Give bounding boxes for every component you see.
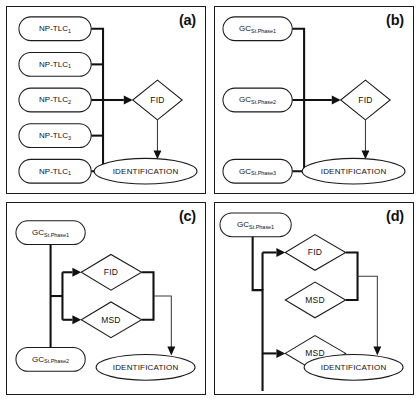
panel-c-arrowhead-msd [72,315,81,324]
panel-b-arrowhead-fid [332,96,341,105]
panel-c-arrowhead-ident [167,346,175,355]
panel-a-source-5-label: NP-TLC1 [39,167,71,177]
panel-d-detector-msd-1-label: MSD [305,295,324,305]
panel-b: (b) GCSt.Phase1 GCSt.Phase2 GCSt.Phase3 … [214,6,414,194]
panel-c-output-bracket [142,272,154,320]
panel-d-spine [253,233,263,391]
panel-b-detector-fid-label: FID [358,95,372,105]
panel-a-output-label: IDENTIFICATION [113,167,179,176]
panel-c-detector-fid-label: FID [104,267,118,277]
panel-d-output-bracket [346,252,358,300]
panel-b-output-label: IDENTIFICATION [321,167,387,176]
panel-d-output-run [358,276,378,347]
panel-a-source-1-label: NP-TLC1 [39,24,71,34]
panel-a: (a) NP-TLC1 NP-TLC1 NP-TLC2 NP-TLC3 NP-T… [6,6,206,194]
panel-a-source-2-label: NP-TLC1 [39,60,71,70]
panel-d-arrowhead-msd2 [276,349,285,358]
panel-c-diagram: GCSt.Phase1 GCSt.Phase2 FID MSD IDENTIFI… [7,203,205,394]
panel-b-arrowhead-ident [361,150,369,159]
panel-d-output-label: IDENTIFICATION [321,363,387,372]
panel-a-detector-fid-label: FID [150,95,164,105]
panel-d-diagram: GCSt.Phase1 FID MSD MSD IDENTIFICATION [215,203,413,394]
panel-a-source-3-label: NP-TLC2 [39,96,71,106]
panel-c: (c) GCSt.Phase1 GCSt.Phase2 FID [6,202,206,395]
panel-c-detector-msd-label: MSD [101,315,120,325]
panel-a-source-4-label: NP-TLC3 [39,131,71,141]
panel-c-arrowhead-fid [72,268,81,277]
panel-c-output-run [154,296,172,347]
panel-b-diagram: GCSt.Phase1 GCSt.Phase2 GCSt.Phase3 FID … [215,7,413,193]
panel-a-arrowhead-ident [153,150,161,159]
panel-d-arrowhead-ident [373,346,381,355]
panel-d-arrowhead-fid [276,248,285,257]
panel-d-detector-msd-2-label: MSD [305,348,324,358]
panel-a-arrowhead-fid [124,96,133,105]
panel-d: (d) GCSt.Phase1 FID MSD MSD [214,202,414,395]
panel-a-diagram: NP-TLC1 NP-TLC1 NP-TLC2 NP-TLC3 NP-TLC1 … [7,7,205,193]
panel-c-output-label: IDENTIFICATION [113,363,179,372]
figure-four-panel-flowchart: (a) NP-TLC1 NP-TLC1 NP-TLC2 NP-TLC3 NP-T… [0,0,420,401]
panel-d-detector-fid-label: FID [308,247,322,257]
